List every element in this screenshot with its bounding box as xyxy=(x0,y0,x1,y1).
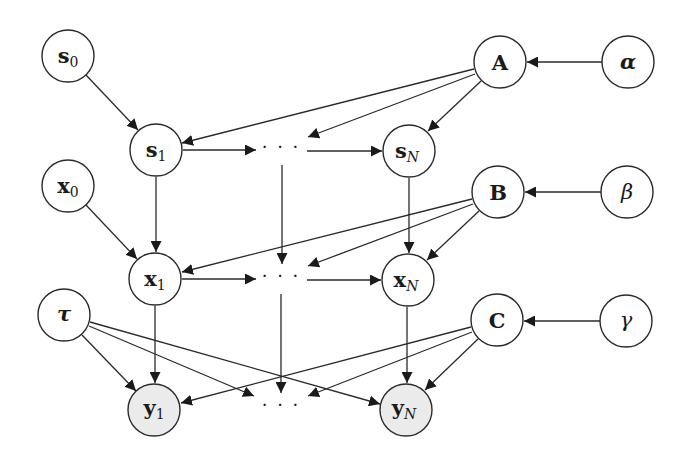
node-x1: x1 xyxy=(129,253,181,305)
node-tau: τ xyxy=(38,289,90,341)
svg-text:γ: γ xyxy=(620,308,633,332)
edge-s0-s1 xyxy=(86,75,138,130)
edge-B-x1 xyxy=(182,199,472,272)
edge-B-xdots xyxy=(308,204,473,266)
node-y1: y1 xyxy=(128,384,180,436)
node-A: A xyxy=(474,36,526,88)
node-s1: s1 xyxy=(130,124,182,176)
node-x0: x0 xyxy=(42,160,94,212)
svg-text:A: A xyxy=(491,50,509,75)
node-alpha: α xyxy=(602,36,654,88)
edge-A-sdots xyxy=(308,74,475,137)
graphical-model-diagram: s0 s1 · · · sN A α x0 x1 · · · xN B xyxy=(0,0,686,463)
svg-text:τ: τ xyxy=(57,301,72,326)
svg-text:α: α xyxy=(620,49,636,74)
node-yN: yN xyxy=(380,384,432,436)
edge-x0-x1 xyxy=(86,205,137,259)
svg-text:C: C xyxy=(489,308,506,333)
edge-A-s1 xyxy=(182,69,474,143)
svg-text:β: β xyxy=(620,180,633,204)
node-sN: sN xyxy=(383,125,435,177)
node-s0: s0 xyxy=(42,30,94,82)
node-xN: xN xyxy=(382,254,434,306)
x-ellipsis: · · · xyxy=(262,265,301,286)
edge-C-ydots xyxy=(308,332,472,396)
node-gamma: γ xyxy=(600,295,652,347)
s-ellipsis: · · · xyxy=(262,136,301,157)
edge-C-y1 xyxy=(181,327,471,403)
node-C: C xyxy=(471,294,523,346)
y-ellipsis: · · · xyxy=(262,394,301,415)
edge-tau-yN xyxy=(90,322,380,404)
node-beta: β xyxy=(601,166,653,218)
edge-tau-y1 xyxy=(82,335,136,391)
edges xyxy=(82,62,602,404)
node-B: B xyxy=(472,166,524,218)
svg-text:B: B xyxy=(489,180,507,205)
